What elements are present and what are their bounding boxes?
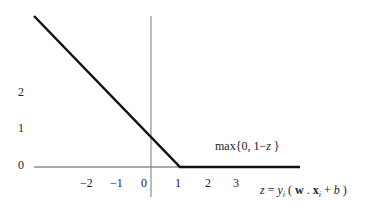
- x-tick--2: −2: [80, 177, 93, 189]
- xl-paren: (: [285, 183, 295, 197]
- hinge-annotation: max{0, 1−z }: [215, 139, 280, 154]
- y-tick-0: 0: [18, 159, 24, 171]
- x-tick-3: 3: [233, 177, 239, 189]
- xl-plus: +: [321, 183, 334, 197]
- x-tick-0: 0: [141, 177, 147, 189]
- xl-close: ): [340, 183, 347, 197]
- y-tick-2: 2: [18, 86, 24, 98]
- hinge-loss-plot: [0, 0, 377, 212]
- xl-eq: =: [265, 183, 278, 197]
- annot-close: }: [271, 139, 280, 153]
- x-tick--1: −1: [110, 177, 123, 189]
- xl-w: w: [295, 183, 304, 197]
- x-axis-label: z = yi ( w . xi + b ): [260, 183, 347, 199]
- x-tick-2: 2: [205, 177, 211, 189]
- y-tick-1: 1: [18, 122, 24, 134]
- annot-text: max{0, 1−: [215, 139, 266, 153]
- xl-dot: .: [304, 183, 313, 197]
- x-tick-1: 1: [175, 177, 181, 189]
